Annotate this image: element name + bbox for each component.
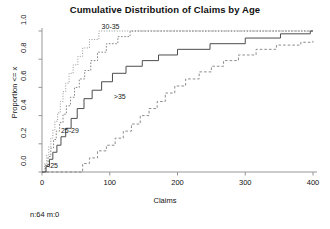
x-tick-label: 300 xyxy=(230,178,260,187)
y-tick-label: 0.4 xyxy=(19,99,28,121)
chart-root: Cumulative Distribution of Claims by Age… xyxy=(0,0,330,229)
x-tick-label: 400 xyxy=(298,178,328,187)
series-line-30-35 xyxy=(42,31,313,172)
y-tick-label: 0.0 xyxy=(19,156,28,178)
annotation--35: >35 xyxy=(114,93,126,100)
y-axis-label: Proportion <= x xyxy=(10,33,19,153)
annotation-25-29: 25-29 xyxy=(61,127,79,134)
chart-footnote: n:64 m:0 xyxy=(30,210,59,219)
x-tick-label: 0 xyxy=(27,178,57,187)
x-tick-label: 200 xyxy=(163,178,193,187)
plot-area xyxy=(0,0,330,229)
x-axis-label: Claims xyxy=(0,196,330,205)
y-tick-label: 0.2 xyxy=(19,127,28,149)
y-tick-label: 0.6 xyxy=(19,71,28,93)
annotation--25: <25 xyxy=(46,162,58,169)
x-tick-label: 100 xyxy=(95,178,125,187)
y-tick-label: 1.0 xyxy=(19,15,28,37)
series-line--35 xyxy=(42,41,313,172)
y-tick-label: 0.8 xyxy=(19,43,28,65)
annotation-30-35: 30-35 xyxy=(102,23,120,30)
